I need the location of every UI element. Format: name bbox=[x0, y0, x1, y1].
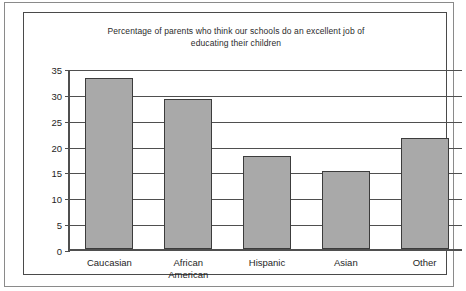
y-axis-tick-label: 20 bbox=[51, 142, 62, 153]
y-axis-tick-label: 10 bbox=[51, 194, 62, 205]
y-axis-tick-label: 30 bbox=[51, 90, 62, 101]
x-axis-category-label: Hispanic bbox=[228, 257, 307, 269]
bar bbox=[322, 171, 370, 249]
chart-title-line-1: Percentage of parents who think our scho… bbox=[54, 26, 418, 38]
y-axis-tick-mark bbox=[65, 173, 70, 174]
y-axis-tick-mark bbox=[65, 70, 70, 71]
gridline bbox=[70, 70, 462, 71]
bar bbox=[164, 99, 212, 249]
chart-title: Percentage of parents who think our scho… bbox=[54, 26, 418, 49]
y-axis-tick-mark bbox=[65, 96, 70, 97]
y-axis-tick-label: 15 bbox=[51, 168, 62, 179]
chart-title-line-2: educating their children bbox=[54, 38, 418, 50]
y-axis-tick-label: 5 bbox=[57, 220, 62, 231]
y-axis-tick-mark bbox=[65, 225, 70, 226]
outer-frame: Percentage of parents who think our scho… bbox=[4, 2, 454, 287]
bar bbox=[243, 156, 291, 249]
y-axis-tick-mark bbox=[65, 122, 70, 123]
y-axis-tick-label: 0 bbox=[57, 246, 62, 257]
y-axis-tick-mark bbox=[65, 251, 70, 252]
x-axis-category-label: Caucasian bbox=[70, 257, 149, 269]
bar bbox=[401, 138, 449, 249]
x-axis-category-label: Asian bbox=[306, 257, 385, 269]
y-axis-tick-mark bbox=[65, 148, 70, 149]
y-axis-tick-mark bbox=[65, 199, 70, 200]
plot-area: 05101520253035CaucasianAfrican AmericanH… bbox=[68, 70, 462, 251]
y-axis-tick-label: 25 bbox=[51, 116, 62, 127]
x-axis-category-label: African American bbox=[149, 257, 228, 280]
y-axis-tick-label: 35 bbox=[51, 65, 62, 76]
bar bbox=[85, 78, 133, 249]
chart-container: Percentage of parents who think our scho… bbox=[23, 12, 447, 275]
x-axis-category-label: Other bbox=[385, 257, 464, 269]
